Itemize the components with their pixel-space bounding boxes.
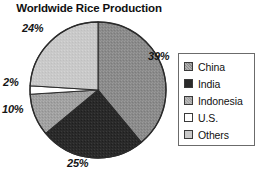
legend-swatch-china-icon [184,62,193,71]
pie-label-china: 39% [148,50,169,62]
legend-label-us: U.S. [198,112,218,124]
pie-label-us: 2% [3,76,19,88]
legend-swatch-us-icon [184,113,193,122]
pie-chart-plot-area [28,20,168,160]
legend-swatch-others-icon [184,130,193,139]
legend-swatch-indonesia-icon [184,96,193,105]
legend-label-india: India [198,78,220,90]
pie-label-others: 24% [22,22,43,34]
pie-svg [28,20,168,160]
legend-item-india: India [184,75,254,92]
legend-item-china: China [184,58,254,75]
pie-label-india: 25% [67,157,88,169]
legend-label-indonesia: Indonesia [198,95,243,107]
legend-label-others: Others [198,129,229,141]
legend-swatch-india-icon [184,79,193,88]
legend-item-indonesia: Indonesia [184,92,254,109]
pie-label-indonesia: 10% [2,103,23,115]
pie-chart-figure: Worldwide Rice Production [0,0,259,174]
legend-item-us: U.S. [184,109,254,126]
chart-legend: China India Indonesia U.S. Others [178,53,255,146]
chart-title: Worldwide Rice Production [0,2,178,14]
legend-item-others: Others [184,126,254,143]
legend-label-china: China [198,61,225,73]
